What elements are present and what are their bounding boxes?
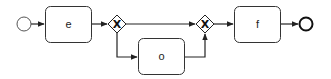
bpmn-diagram: e X o X f [0, 0, 331, 79]
gateway-x-icon: X [113, 18, 122, 31]
task-e[interactable]: e [46, 7, 92, 43]
task-f[interactable]: f [235, 7, 281, 43]
task-o-label: o [158, 50, 164, 62]
flow-split-to-o[interactable] [117, 33, 137, 57]
flow-o-to-join[interactable] [185, 34, 205, 57]
task-e-label: e [65, 18, 71, 30]
exclusive-gateway-split[interactable]: X [108, 15, 126, 33]
start-event-icon[interactable] [17, 17, 31, 31]
task-o[interactable]: o [139, 39, 185, 75]
gateway-x-icon: X [201, 18, 210, 31]
end-event-icon[interactable] [300, 18, 313, 31]
exclusive-gateway-join[interactable]: X [196, 15, 214, 33]
